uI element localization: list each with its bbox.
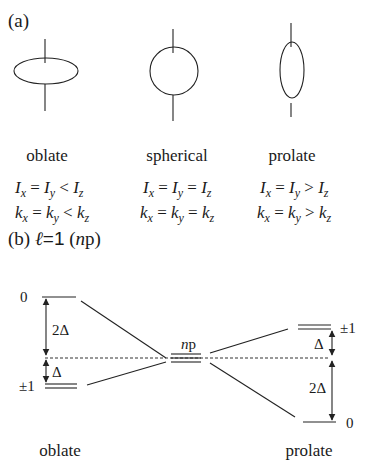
prolate-inertia-equation: Ix = Iy > Iz bbox=[259, 178, 329, 200]
oblate-inertia-equation: Ix = Iy < Iz bbox=[14, 178, 84, 200]
oblate-shape bbox=[14, 39, 78, 111]
oblate-delta-label: Δ bbox=[52, 364, 62, 380]
oblate-level-pm1-label: ±1 bbox=[19, 378, 35, 394]
np-label: np bbox=[181, 336, 196, 352]
svg-text:Ix = Iy > Iz: Ix = Iy > Iz bbox=[259, 178, 329, 200]
prolate-label: prolate bbox=[268, 146, 315, 165]
energy-level-diagram: 0 ±1 2Δ Δ np ±1 0 Δ 2Δ bbox=[19, 289, 356, 431]
deformation-diagram: (a) oblate spherical prolate Ix = Iy < I… bbox=[0, 0, 367, 466]
svg-text:Ix = Iy = Iz: Ix = Iy = Iz bbox=[142, 178, 212, 200]
oblate-level-0-label: 0 bbox=[20, 289, 28, 305]
oblate-label: oblate bbox=[26, 146, 68, 165]
prolate-level-pm1-label: ±1 bbox=[340, 320, 356, 336]
spherical-shape bbox=[150, 29, 198, 121]
prolate-delta-label: Δ bbox=[314, 336, 324, 352]
oblate-k-equation: kx = ky < kz bbox=[15, 203, 89, 225]
spherical-k-equation: kx = ky = kz bbox=[140, 203, 214, 225]
spherical-label: spherical bbox=[146, 146, 208, 165]
oblate-caption: oblate bbox=[39, 441, 81, 460]
prolate-2delta-label: 2Δ bbox=[309, 380, 327, 396]
svg-text:kx = ky > kz: kx = ky > kz bbox=[257, 203, 331, 225]
prolate-level-0-label: 0 bbox=[346, 415, 354, 431]
spherical-inertia-equation: Ix = Iy = Iz bbox=[142, 178, 212, 200]
part-b-label: (b) ℓ=1 (np) bbox=[8, 228, 101, 250]
part-a-label: (a) bbox=[8, 10, 29, 32]
svg-text:kx = ky < kz: kx = ky < kz bbox=[15, 203, 89, 225]
prolate-caption: prolate bbox=[285, 441, 332, 460]
svg-text:Ix = Iy < Iz: Ix = Iy < Iz bbox=[14, 178, 84, 200]
svg-text:kx = ky = kz: kx = ky = kz bbox=[140, 203, 214, 225]
oblate-2delta-label: 2Δ bbox=[52, 322, 70, 338]
prolate-shape bbox=[280, 23, 304, 117]
prolate-k-equation: kx = ky > kz bbox=[257, 203, 331, 225]
